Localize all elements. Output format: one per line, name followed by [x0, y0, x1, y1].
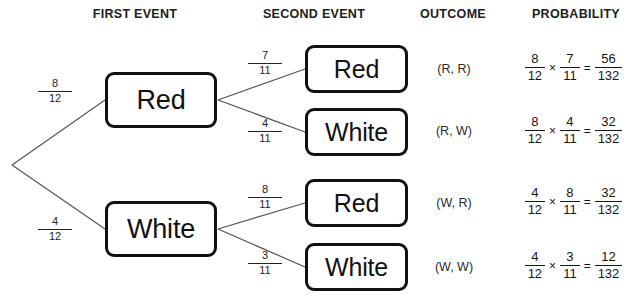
probability-rw-result-fraction: 32 132	[595, 115, 623, 146]
branch-fraction-first-red-numerator: 8	[38, 78, 72, 91]
outcome-label-wr: (W, R)	[408, 196, 500, 210]
probability-rr-first-denominator: 12	[525, 67, 545, 83]
probability-rw-first-denominator: 12	[525, 130, 545, 146]
probability-rr-second-denominator: 11	[560, 67, 580, 83]
branch-fraction-second-white-after-white-numerator: 3	[248, 250, 282, 263]
equals-sign: =	[583, 195, 592, 209]
first-event-node-red-label: Red	[137, 87, 186, 114]
probability-ww-first-denominator: 12	[525, 265, 545, 281]
outcome-label-rw: (R, W)	[408, 124, 500, 138]
branch-fraction-second-red-after-white-numerator: 8	[248, 184, 282, 197]
second-event-node-white-after-white[interactable]: White	[305, 243, 408, 291]
first-event-node-red[interactable]: Red	[105, 72, 217, 128]
probability-rw-second-fraction: 4 11	[560, 115, 580, 146]
branch-fraction-second-red-after-white-denominator: 11	[248, 197, 282, 211]
branch-fraction-second-red-after-red: 7 11	[248, 50, 282, 76]
probability-rr-first-fraction: 8 12	[525, 52, 545, 83]
branch-fraction-first-white: 4 12	[38, 216, 72, 242]
multiply-sign: ×	[548, 195, 557, 209]
probability-tree-diagram: FIRST EVENT SECOND EVENT OUTCOME PROBABI…	[0, 0, 644, 297]
branch-fraction-second-white-after-red: 4 11	[248, 118, 282, 144]
probability-ww-second-fraction: 3 11	[560, 250, 580, 281]
probability-wr-second-fraction: 8 11	[560, 186, 580, 217]
probability-wr-result-fraction: 32 132	[595, 186, 623, 217]
probability-ww-result-fraction: 12 132	[595, 250, 623, 281]
probability-expression-ww: 4 12 × 3 11 = 12 132	[503, 250, 644, 281]
first-event-node-white[interactable]: White	[105, 201, 217, 257]
multiply-sign: ×	[548, 259, 557, 273]
probability-wr-result-denominator: 132	[595, 201, 623, 217]
probability-rw-second-numerator: 4	[563, 115, 576, 130]
probability-ww-first-numerator: 4	[528, 250, 541, 265]
probability-rw-first-fraction: 8 12	[525, 115, 545, 146]
probability-wr-first-denominator: 12	[525, 201, 545, 217]
second-event-node-red-after-white[interactable]: Red	[305, 179, 408, 227]
probability-rr-first-numerator: 8	[528, 52, 541, 67]
probability-rr-second-numerator: 7	[563, 52, 576, 67]
probability-rr-second-fraction: 7 11	[560, 52, 580, 83]
first-event-node-white-label: White	[127, 216, 195, 243]
equals-sign: =	[583, 61, 592, 75]
second-event-node-white-after-red[interactable]: White	[305, 108, 408, 156]
branch-fraction-second-white-after-red-numerator: 4	[248, 118, 282, 131]
branch-fraction-second-white-after-red-denominator: 11	[248, 131, 282, 145]
probability-wr-result-numerator: 32	[598, 186, 618, 201]
second-event-node-red-after-red[interactable]: Red	[305, 45, 408, 93]
second-event-node-red-after-white-label: Red	[334, 191, 379, 216]
probability-rw-second-denominator: 11	[560, 130, 580, 146]
probability-rw-result-denominator: 132	[595, 130, 623, 146]
probability-expression-wr: 4 12 × 8 11 = 32 132	[503, 186, 644, 217]
probability-rr-result-numerator: 56	[598, 52, 618, 67]
equals-sign: =	[583, 259, 592, 273]
outcome-label-ww: (W, W)	[408, 260, 500, 274]
branch-fraction-second-white-after-white: 3 11	[248, 250, 282, 276]
probability-wr-second-denominator: 11	[560, 201, 580, 217]
branch-fraction-second-red-after-white: 8 11	[248, 184, 282, 210]
equals-sign: =	[583, 124, 592, 138]
probability-wr-first-numerator: 4	[528, 186, 541, 201]
probability-ww-second-denominator: 11	[560, 265, 580, 281]
branch-fraction-first-red: 8 12	[38, 78, 72, 104]
probability-rw-result-numerator: 32	[598, 115, 618, 130]
second-event-node-white-after-white-label: White	[325, 255, 388, 280]
probability-ww-result-numerator: 12	[598, 250, 618, 265]
second-event-node-red-after-red-label: Red	[334, 57, 379, 82]
branch-fraction-second-red-after-red-denominator: 11	[248, 63, 282, 77]
probability-expression-rw: 8 12 × 4 11 = 32 132	[503, 115, 644, 146]
probability-wr-second-numerator: 8	[563, 186, 576, 201]
probability-ww-first-fraction: 4 12	[525, 250, 545, 281]
probability-rr-result-denominator: 132	[595, 67, 623, 83]
branch-fraction-first-white-denominator: 12	[38, 229, 72, 243]
multiply-sign: ×	[548, 124, 557, 138]
branch-fraction-first-white-numerator: 4	[38, 216, 72, 229]
branch-fraction-second-white-after-white-denominator: 11	[248, 263, 282, 277]
outcome-label-rr: (R, R)	[408, 62, 500, 76]
probability-ww-second-numerator: 3	[563, 250, 576, 265]
probability-rr-result-fraction: 56 132	[595, 52, 623, 83]
branch-fraction-first-red-denominator: 12	[38, 91, 72, 105]
probability-wr-first-fraction: 4 12	[525, 186, 545, 217]
probability-ww-result-denominator: 132	[595, 265, 623, 281]
multiply-sign: ×	[548, 61, 557, 75]
branch-fraction-second-red-after-red-numerator: 7	[248, 50, 282, 63]
second-event-node-white-after-red-label: White	[325, 120, 388, 145]
probability-rw-first-numerator: 8	[528, 115, 541, 130]
branch-line-root-red	[12, 100, 105, 165]
probability-expression-rr: 8 12 × 7 11 = 56 132	[503, 52, 644, 83]
